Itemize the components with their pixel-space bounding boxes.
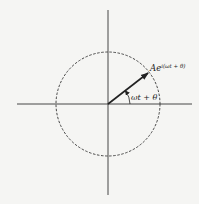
phasor-label-exponent: i(ωt + θ) [161,63,185,69]
angle-arc [126,91,131,104]
diagram-svg: Aei(ωt + θ) ωt + θ [0,0,199,204]
angle-label: ωt + θ [131,93,158,102]
phasor-label-base: Ae [149,63,161,73]
phasor-diagram: Aei(ωt + θ) ωt + θ [0,0,199,204]
phasor-label: Aei(ωt + θ) [149,63,185,73]
